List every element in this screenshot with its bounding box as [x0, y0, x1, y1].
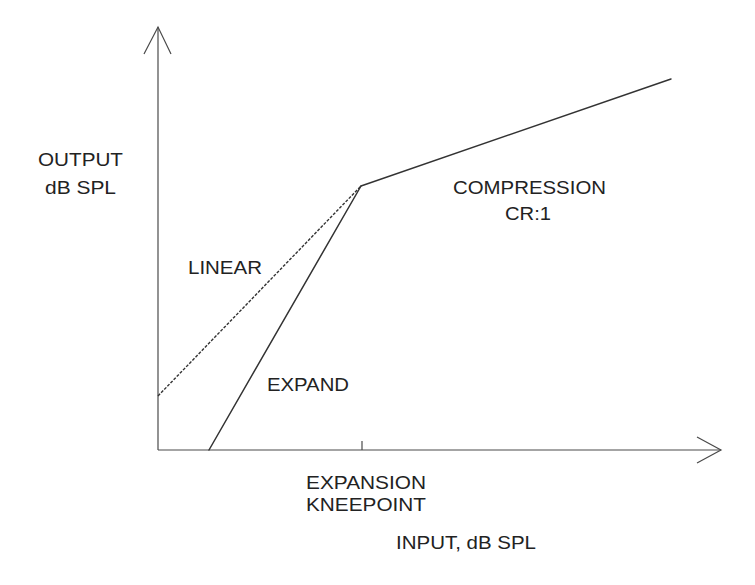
compression-line — [361, 79, 671, 186]
y-axis-label-line2: dB SPL — [45, 178, 116, 198]
x-axis — [158, 437, 721, 463]
kneepoint-label-line1: EXPANSION — [306, 473, 426, 493]
x-axis-label: INPUT, dB SPL — [396, 533, 536, 553]
compression-label: COMPRESSION — [453, 178, 606, 198]
linear-label: LINEAR — [188, 258, 262, 278]
expand-line — [209, 186, 361, 450]
expansion-compression-diagram: OUTPUT dB SPL LINEAR EXPAND COMPRESSION … — [0, 0, 755, 585]
expand-label: EXPAND — [267, 375, 349, 395]
compression-ratio-label: CR:1 — [505, 204, 551, 224]
kneepoint-label-line2: KNEEPOINT — [306, 495, 426, 515]
y-axis-label-line1: OUTPUT — [38, 150, 123, 170]
y-axis — [144, 27, 171, 450]
linear-line — [158, 186, 361, 396]
